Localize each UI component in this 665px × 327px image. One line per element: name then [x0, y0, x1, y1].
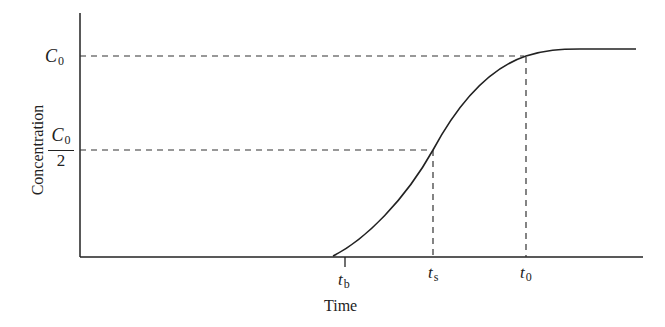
c0-label: C0 [45, 47, 64, 67]
ts-label: ts [428, 264, 438, 283]
y-axis-label: Concentration [29, 105, 47, 196]
t0-label: t0 [520, 264, 532, 283]
half-c0-label: C0 2 [48, 125, 74, 171]
x-axis-label: Time [324, 298, 357, 314]
breakthrough-curve-diagram: Concentration C0 C0 2 tb ts t0 Time [0, 0, 665, 327]
breakthrough-curve [333, 49, 636, 256]
tb-label: tb [338, 271, 350, 290]
plot-area [0, 0, 665, 327]
